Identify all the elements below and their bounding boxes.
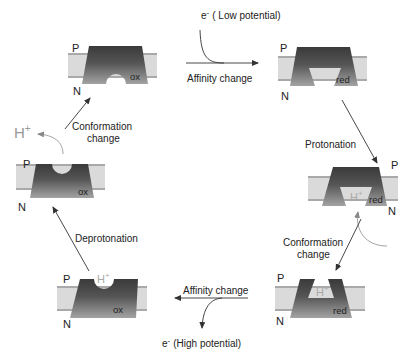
conformation-label: Conformation [72,121,132,132]
n-side-label: N [18,201,26,213]
electron-input-curve [200,30,224,63]
state-3-red-protonated: H+ red P N [308,159,398,217]
p-side-label: P [277,272,284,284]
p-side-label: P [391,159,398,171]
conformation-label: Conformation [283,237,343,248]
redox-label: ox [113,304,123,315]
step-affinity-change-bottom: Affinity change e-(High potential) [162,285,249,349]
arrow-s2-to-s3 [342,100,377,163]
n-side-label: N [63,318,71,330]
state-6-ox-deprotonated: ox P N [16,158,105,213]
step-affinity-change-top: e-( Low potential) Affinity change [186,8,281,84]
change-label: change [297,249,330,260]
state-2-red: P N red [278,42,367,102]
step-conformation-change-right: Conformation change [283,219,361,270]
redox-label: red [333,305,347,316]
affinity-change-label: Affinity change [183,285,249,296]
affinity-change-label: Affinity change [187,73,253,84]
change-label: change [87,133,120,144]
proton-entry-curve [357,212,387,246]
electron-output-curve [202,298,222,328]
p-side-label: P [63,273,70,285]
p-side-label: P [72,42,79,54]
p-side-label: P [280,42,287,54]
n-side-label: N [276,315,284,327]
cycle-diagram: P N ox P N red H+ red P N [0,0,410,360]
proton-release-curve [38,134,63,154]
proton-label: H+ [97,271,110,285]
n-side-label: N [388,205,396,217]
redox-label: ox [130,71,140,82]
step-deprotonation: Deprotonation [53,207,138,271]
redox-label: red [369,194,383,205]
redox-label: red [336,74,350,85]
p-side-label: P [23,158,30,170]
protonation-label: Protonation [305,139,356,150]
redox-label: ox [78,186,88,197]
deprotonation-label: Deprotonation [75,233,138,244]
electron-low-potential-label: e-( Low potential) [201,8,281,21]
released-proton-label: H+ [14,123,31,141]
state-5-ox-protonated: H+ ox P N [57,271,147,330]
state-4-red-occluded: H+ red P N [275,272,365,327]
step-protonation: Protonation [305,100,377,163]
n-side-label: N [281,90,289,102]
state-1-ox: P N ox [68,42,157,97]
step-conformation-change-left: Conformation change H+ [14,98,132,154]
n-side-label: N [73,85,81,97]
electron-high-potential-label: e-(High potential) [162,336,241,349]
